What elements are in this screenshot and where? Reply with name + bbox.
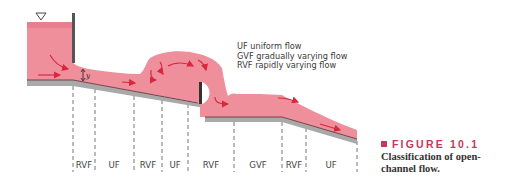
caption-line-2: channel flow. xyxy=(381,163,481,175)
region-label: RVF xyxy=(76,160,92,170)
figure-label-text: FIGURE 10.1 xyxy=(392,138,479,150)
figure-label: FIGURE 10.1 xyxy=(381,138,481,150)
square-bullet-icon xyxy=(381,141,387,147)
region-label: GVF xyxy=(249,160,266,170)
region-label: RVF xyxy=(140,160,156,170)
free-surface-triangle-icon xyxy=(36,13,46,20)
figure-description: Classification of open- channel flow. xyxy=(381,151,481,174)
figure-caption: FIGURE 10.1 Classification of open- chan… xyxy=(381,138,481,174)
region-label: UF xyxy=(325,160,336,170)
caption-line-1: Classification of open- xyxy=(381,151,481,163)
region-label: RVF xyxy=(286,160,302,170)
region-label: UF xyxy=(169,160,180,170)
region-label: RVF xyxy=(203,160,219,170)
legend-item-rvf: RVF rapidly varying flow xyxy=(237,61,347,71)
sluice-gate xyxy=(72,13,75,63)
region-label: UF xyxy=(108,160,119,170)
legend: UF uniform flow GVF gradually varying fl… xyxy=(237,42,347,71)
